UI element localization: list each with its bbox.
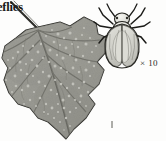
figure-container: eflies × 10 bbox=[0, 0, 166, 141]
caption-fragment: eflies bbox=[0, 0, 23, 14]
whitefly-eye-right bbox=[126, 17, 128, 19]
figure-illustration bbox=[0, 0, 166, 141]
whitefly-eye-left bbox=[116, 17, 118, 19]
leaf-group bbox=[0, 0, 166, 141]
magnification-label: × 10 bbox=[140, 58, 158, 68]
